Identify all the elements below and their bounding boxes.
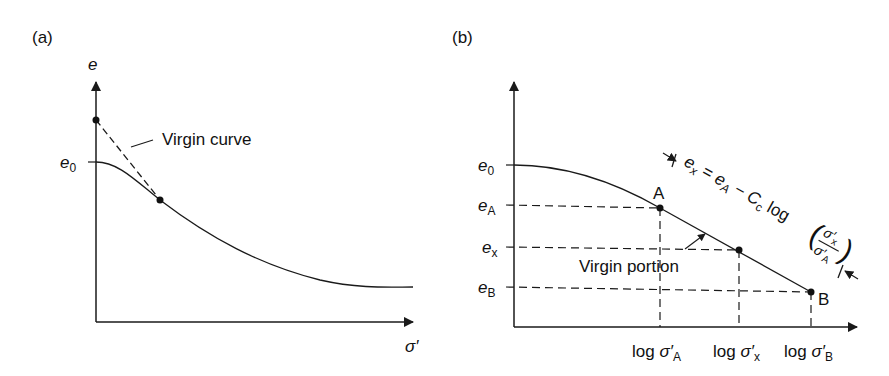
- y-label-e0: e0: [478, 156, 494, 178]
- y-label-eB: eB: [478, 278, 495, 300]
- virgin-start-point: [93, 117, 100, 124]
- compression-curve: [96, 162, 413, 287]
- x-label-logB: log σ′B: [784, 342, 833, 364]
- recompression-curve: [514, 165, 660, 208]
- point-A: [657, 205, 664, 212]
- equation-text: ex = eA − Cc log: [680, 152, 793, 228]
- x-label-logA: log σ′A: [632, 342, 681, 364]
- ex-guide: [506, 247, 739, 250]
- figure-canvas: (a) e σ′ e0 Virgin curve (b) e0 eA ex eB: [0, 0, 889, 376]
- eB-guide: [506, 287, 811, 292]
- x-axis-label: σ′: [405, 337, 419, 356]
- y-label-eA: eA: [478, 196, 495, 218]
- e0-label: e0: [60, 153, 76, 175]
- y-axis-label: e: [88, 55, 97, 74]
- point-x: [736, 247, 743, 254]
- x-label-logx: log σ′x: [713, 342, 760, 364]
- virgin-curve-line: [96, 120, 160, 200]
- annotation-leader: [131, 140, 153, 147]
- y-label-ex: ex: [482, 238, 497, 260]
- tangent-point: [157, 197, 164, 204]
- virgin-portion-annotation: Virgin portion: [579, 257, 679, 276]
- panel-a-label: (a): [32, 28, 53, 47]
- virgin-curve-annotation: Virgin curve: [162, 130, 251, 149]
- eq-arrow-end: [845, 271, 858, 279]
- panel-a: (a) e σ′ e0 Virgin curve: [32, 28, 419, 356]
- panel-b: (b) e0 eA ex eB A B: [452, 28, 859, 364]
- y-labels: e0 eA ex eB: [478, 156, 514, 300]
- eq-bar-end: [838, 265, 843, 278]
- eA-guide: [506, 205, 660, 208]
- panel-b-label: (b): [452, 28, 473, 47]
- equation-group: ex = eA − Cc log ( σ′x σ′A ): [663, 147, 859, 279]
- virgin-portion-arrow: [685, 234, 705, 249]
- point-B-label: B: [818, 290, 829, 309]
- point-B: [808, 289, 815, 296]
- point-A-label: A: [653, 184, 665, 203]
